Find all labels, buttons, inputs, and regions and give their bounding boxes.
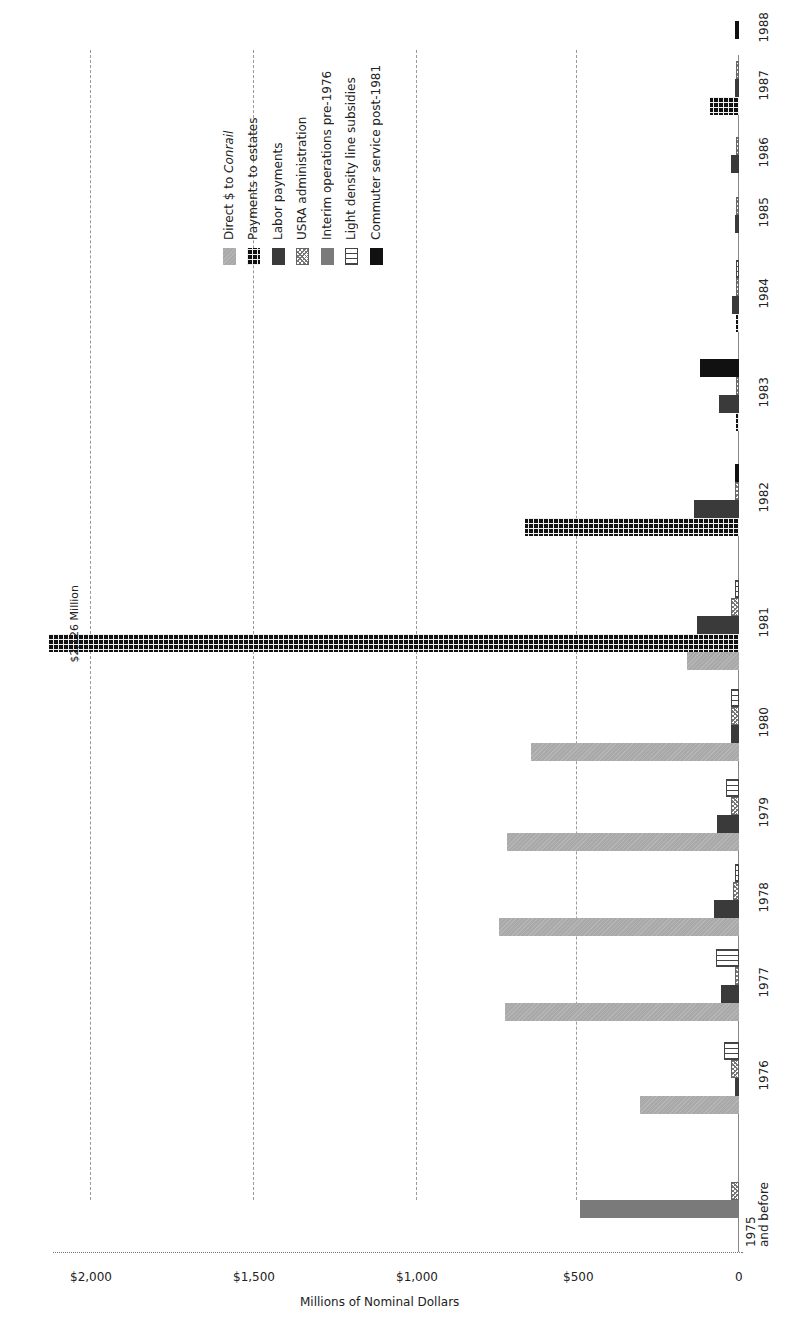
bar-estates-1981 <box>49 634 739 652</box>
year-text: 1987 <box>758 70 771 101</box>
bar-direct-1980 <box>531 743 739 761</box>
gridline-1000 <box>416 50 417 1200</box>
year-text: 1983 <box>758 377 771 408</box>
x-tick-label: 1988 <box>758 12 771 43</box>
legend-label: Commuter service post-1981 <box>369 65 383 240</box>
bar-labor-1976 <box>735 1078 739 1096</box>
legend-label: USRA administration <box>296 117 310 240</box>
bar-light-1976 <box>724 1042 739 1060</box>
legend-swatch-icon <box>321 248 334 265</box>
year-text: 1979 <box>758 797 771 828</box>
year-text: 1980 <box>758 707 771 738</box>
bar-commuter-1983 <box>700 359 739 377</box>
bar-usra-1980 <box>731 707 739 725</box>
year-text: 1976 <box>758 1060 771 1091</box>
legend-label: Interim operations pre-1976 <box>320 71 334 240</box>
legend-item: Light density line subsidies <box>345 77 359 265</box>
legend-item: Interim operations pre-1976 <box>320 71 334 265</box>
legend-swatch-icon <box>296 248 309 265</box>
legend-swatch-icon <box>247 248 260 265</box>
bar-usra-1977 <box>735 967 739 985</box>
year-text: 1985 <box>758 197 771 228</box>
bar-usra-1985 <box>736 197 739 215</box>
legend-item: Commuter service post-1981 <box>369 65 383 265</box>
y-axis-label: Millions of Nominal Dollars <box>300 1295 459 1309</box>
y-axis-line <box>53 1252 743 1253</box>
chart-canvas: 0$500$1,000$1,500$2,000 Millions of Nomi… <box>0 0 803 1317</box>
bar-light-1981 <box>735 580 739 598</box>
bar-usra-1987 <box>736 61 739 79</box>
bar-light-1978 <box>735 864 739 882</box>
x-tick-label: 1978 <box>758 882 771 913</box>
bar-labor-1984 <box>732 296 739 314</box>
x-tick-label: 1976 <box>758 1060 771 1091</box>
legend-item: USRA administration <box>296 117 310 265</box>
bar-usra-1979 <box>731 797 739 815</box>
bar-labor-1987 <box>735 79 739 97</box>
bar-estates-1982 <box>525 518 739 536</box>
bar-labor-1986 <box>731 155 739 173</box>
legend-item: Labor payments <box>271 143 285 265</box>
bar-labor-1985 <box>735 215 739 233</box>
year-text: 1981 <box>758 607 771 638</box>
bar-usra-1983 <box>736 377 739 395</box>
legend-label: Labor payments <box>271 143 285 240</box>
x-tick-label: 1985 <box>758 197 771 228</box>
year-text: 1988 <box>758 12 771 43</box>
gridline-500 <box>576 50 577 1200</box>
bar-usra-1978 <box>733 882 739 900</box>
year-text: 1984 <box>758 278 771 309</box>
bar-commuter-1982 <box>735 464 739 482</box>
x-tick-label: 1979 <box>758 797 771 828</box>
bar-labor-1982 <box>694 500 739 518</box>
legend-label: Direct $ to Conrail <box>222 131 236 240</box>
y-tick-label: $1,500 <box>233 1270 275 1284</box>
peak-annotation: $2,126 Million <box>68 585 81 662</box>
year-text: 1986 <box>758 137 771 168</box>
bar-direct-1977 <box>505 1003 739 1021</box>
y-tick-label: $1,000 <box>396 1270 438 1284</box>
bar-estates-1987 <box>710 97 739 115</box>
bar-estates-1984 <box>736 314 739 332</box>
y-tick-label: $500 <box>563 1270 594 1284</box>
bar-usra-1982 <box>735 482 739 500</box>
bar-usra-1975 <box>731 1182 739 1200</box>
legend-swatch-icon <box>223 248 236 265</box>
legend-swatch-icon <box>345 248 358 265</box>
bar-labor-1981 <box>697 616 739 634</box>
bar-direct-1976 <box>640 1096 739 1114</box>
bar-usra-1976 <box>731 1060 739 1078</box>
x-tick-label: 1980 <box>758 707 771 738</box>
bar-labor-1977 <box>721 985 739 1003</box>
bar-labor-1983 <box>719 395 739 413</box>
bar-interim-1975 <box>580 1200 739 1218</box>
x-tick-label: 1975and before <box>745 1182 771 1247</box>
x-tick-label: 1983 <box>758 377 771 408</box>
y-tick-label: $2,000 <box>70 1270 112 1284</box>
year-text: 1977 <box>758 967 771 998</box>
legend-item: Payments to estates <box>247 118 261 266</box>
legend-swatch-icon <box>272 248 285 265</box>
x-tick-label: 1984 <box>758 278 771 309</box>
bar-light-1984 <box>736 260 739 278</box>
bar-labor-1979 <box>717 815 739 833</box>
x-tick-label: 1977 <box>758 967 771 998</box>
bar-usra-1981 <box>731 598 739 616</box>
year-text: 1978 <box>758 882 771 913</box>
x-tick-label: 1986 <box>758 137 771 168</box>
x-tick-label: 1982 <box>758 482 771 513</box>
bar-direct-1978 <box>499 918 739 936</box>
bar-usra-1986 <box>736 137 739 155</box>
legend-label: Payments to estates <box>247 118 261 241</box>
legend-label: Light density line subsidies <box>345 77 359 240</box>
gridline-2000 <box>90 50 91 1200</box>
bar-usra-1984 <box>736 278 739 296</box>
year-subtext: and before <box>758 1182 771 1247</box>
year-text: 1982 <box>758 482 771 513</box>
legend-item: Direct $ to Conrail <box>222 131 236 265</box>
bar-light-1977 <box>716 949 739 967</box>
bar-commuter-1988 <box>735 21 739 39</box>
bar-labor-1978 <box>714 900 739 918</box>
x-tick-label: 1981 <box>758 607 771 638</box>
x-tick-label: 1987 <box>758 70 771 101</box>
